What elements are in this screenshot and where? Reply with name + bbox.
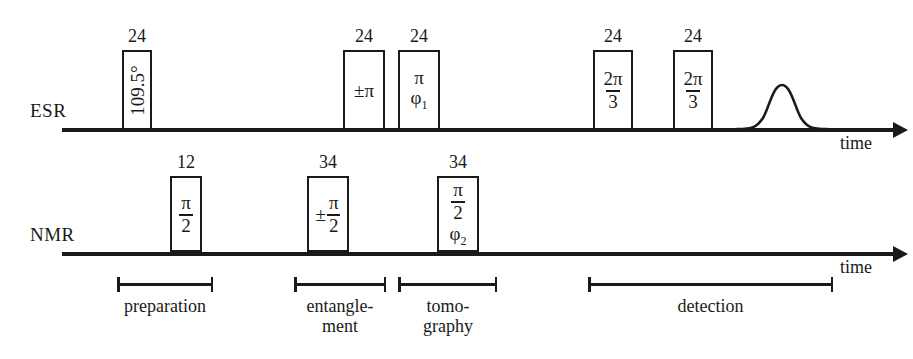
- bracket-bar: [588, 283, 833, 286]
- esr-pulse-3-phase-symbol: φ: [411, 87, 422, 108]
- nmr-pulse-1[interactable]: π 2: [170, 176, 202, 252]
- esr-pulse-3-angle: π: [414, 68, 424, 88]
- esr-pulse-5-label: 2π 3: [681, 69, 704, 111]
- nmr-pulse-2-numerator: π: [327, 193, 341, 212]
- esr-pulse-2-duration: 24: [343, 26, 385, 47]
- esr-pulse-5[interactable]: 2π 3: [673, 50, 713, 130]
- esr-pulse-4[interactable]: 2π 3: [593, 50, 633, 130]
- gaussian-echo-signal: [735, 78, 830, 132]
- segment-label-detection-line1: detection: [588, 296, 833, 316]
- segment-label-tomography-line1: tomo-: [388, 296, 508, 316]
- nmr-pulse-2-duration: 34: [307, 152, 349, 173]
- esr-pulse-5-numerator: 2π: [681, 69, 704, 88]
- nmr-pulse-3-duration: 34: [437, 152, 479, 173]
- nmr-pulse-1-numerator: π: [179, 193, 193, 212]
- bracket-tick-right: [831, 277, 834, 292]
- esr-pulse-4-duration: 24: [593, 26, 633, 47]
- pulse-sequence-figure: ESR time 24 109.5° 24 ±π 24 π φ1 24 2π 3…: [0, 0, 913, 359]
- segment-label-entanglement: entangle- ment: [280, 296, 400, 336]
- bracket-bar: [294, 283, 386, 286]
- segment-label-tomography: tomo- graphy: [388, 296, 508, 336]
- bracket-tick-right: [495, 277, 498, 292]
- nmr-time-axis: [62, 252, 895, 256]
- nmr-pulse-1-label: π 2: [179, 193, 193, 235]
- nmr-pulse-2[interactable]: ± π 2: [307, 176, 349, 252]
- esr-pulse-3-phase: φ1: [411, 88, 428, 111]
- nmr-pulse-2-denominator: 2: [327, 214, 341, 235]
- nmr-pulse-2-fraction: π 2: [327, 193, 341, 235]
- segment-bracket-preparation: [117, 277, 213, 292]
- esr-pulse-1-duration: 24: [122, 26, 152, 47]
- esr-pulse-3-phase-index: 1: [421, 98, 427, 112]
- esr-time-axis-arrow: [893, 122, 908, 138]
- nmr-pulse-2-label: ± π 2: [315, 193, 340, 235]
- nmr-time-axis-arrow: [893, 246, 908, 262]
- esr-pulse-3-duration: 24: [398, 26, 440, 47]
- esr-pulse-1-label: 109.5°: [128, 65, 147, 115]
- esr-pulse-5-denominator: 3: [686, 90, 700, 111]
- segment-bracket-entanglement: [294, 277, 386, 292]
- nmr-pulse-1-denominator: 2: [179, 214, 193, 235]
- bracket-bar: [398, 283, 497, 286]
- nmr-pulse-3-label: π 2 φ2: [450, 180, 467, 247]
- esr-pulse-2-label: ±π: [354, 81, 374, 100]
- esr-pulse-4-denominator: 3: [606, 90, 620, 111]
- nmr-pulse-3[interactable]: π 2 φ2: [437, 176, 479, 252]
- bracket-bar: [117, 283, 213, 286]
- nmr-pulse-3-fraction: π 2: [451, 180, 465, 222]
- esr-pulse-1[interactable]: 109.5°: [122, 50, 152, 130]
- esr-time-label: time: [840, 133, 872, 154]
- esr-pulse-2[interactable]: ±π: [343, 50, 385, 130]
- segment-label-tomography-line2: graphy: [388, 316, 508, 336]
- nmr-pulse-3-phase: φ2: [450, 224, 467, 247]
- segment-label-entanglement-line1: entangle-: [280, 296, 400, 316]
- nmr-pulse-2-sign: ±: [315, 205, 325, 224]
- nmr-pulse-3-denominator: 2: [451, 201, 465, 222]
- segment-label-preparation-line1: preparation: [87, 296, 243, 316]
- nmr-pulse-3-numerator: π: [451, 180, 465, 199]
- esr-pulse-3[interactable]: π φ1: [398, 50, 440, 130]
- esr-pulse-4-numerator: 2π: [601, 69, 624, 88]
- bracket-tick-right: [384, 277, 387, 292]
- esr-pulse-4-label: 2π 3: [601, 69, 624, 111]
- channel-label-esr: ESR: [30, 100, 66, 122]
- esr-pulse-3-label: π φ1: [411, 68, 428, 111]
- segment-label-preparation: preparation: [87, 296, 243, 316]
- segment-bracket-tomography: [398, 277, 497, 292]
- segment-label-detection: detection: [588, 296, 833, 316]
- segment-label-entanglement-line2: ment: [280, 316, 400, 336]
- nmr-pulse-3-phase-symbol: φ: [450, 223, 461, 244]
- bracket-tick-right: [211, 277, 214, 292]
- nmr-pulse-1-duration: 12: [170, 152, 202, 173]
- segment-bracket-detection: [588, 277, 833, 292]
- nmr-time-label: time: [840, 257, 872, 278]
- nmr-pulse-3-phase-index: 2: [460, 234, 466, 248]
- channel-label-nmr: NMR: [30, 224, 75, 246]
- esr-pulse-5-duration: 24: [673, 26, 713, 47]
